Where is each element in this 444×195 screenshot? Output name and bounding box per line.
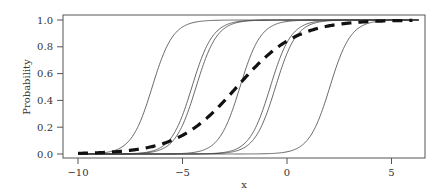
probability-curve: [78, 20, 419, 154]
y-tick-label: 0.6: [37, 68, 53, 79]
x-tick-label: −5: [175, 167, 190, 178]
chart: 0.00.20.40.60.81.0 −10−505 x Probability: [0, 0, 444, 195]
x-tick-label: −10: [67, 167, 88, 178]
y-tick-label: 0.2: [37, 122, 53, 133]
dashed-overall-curve: [78, 20, 412, 153]
x-tick-label: 0: [284, 167, 290, 178]
probability-curve: [78, 20, 419, 154]
x-axis-label: x: [241, 179, 247, 190]
probability-curve: [78, 20, 419, 154]
y-axis-label: Probability: [21, 59, 32, 115]
x-tick-label: 5: [388, 167, 394, 178]
y-tick-label: 0.4: [37, 95, 53, 106]
probability-curve: [78, 20, 419, 154]
y-tick-label: 0.0: [37, 149, 53, 160]
y-tick-label: 1.0: [37, 15, 53, 26]
x-axis: −10−505: [67, 158, 394, 178]
probability-curve: [78, 20, 419, 154]
curves: [78, 20, 419, 154]
plot-frame: [63, 15, 425, 158]
y-axis: 0.00.20.40.60.81.0: [37, 15, 63, 160]
probability-curve: [78, 20, 419, 154]
y-tick-label: 0.8: [37, 41, 53, 52]
probability-curve: [78, 20, 419, 154]
